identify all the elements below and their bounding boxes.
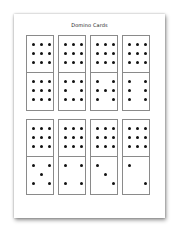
pip-dot — [96, 164, 99, 167]
pip-dot — [112, 89, 115, 92]
pip-dot — [104, 89, 107, 92]
pip-dot — [32, 182, 35, 185]
pip-dot — [48, 80, 51, 83]
domino-card — [122, 119, 150, 195]
pip-dot — [112, 136, 115, 139]
pip-dot — [32, 145, 35, 148]
domino-half-bottom — [59, 73, 85, 110]
pip-dot — [64, 43, 67, 46]
pip-dot — [136, 52, 139, 55]
pip-dot — [112, 127, 115, 130]
pip-dot — [40, 136, 43, 139]
pip-dot — [128, 145, 131, 148]
pip-dot — [48, 52, 51, 55]
pip-dot — [72, 80, 75, 83]
pip-dot — [128, 98, 131, 101]
domino-card — [26, 35, 54, 111]
domino-half-top — [27, 120, 53, 157]
domino-half-bottom — [91, 73, 117, 110]
pip-dot — [112, 61, 115, 64]
pip-dot — [32, 136, 35, 139]
pip-dot — [48, 89, 51, 92]
domino-half-top — [27, 36, 53, 73]
pip-dot — [144, 43, 147, 46]
pip-dot — [144, 80, 147, 83]
pip-dot — [40, 89, 43, 92]
pip-dot — [112, 182, 115, 185]
pip-dot — [128, 136, 131, 139]
pip-dot — [128, 52, 131, 55]
pip-dot — [144, 145, 147, 148]
pip-dot — [80, 182, 83, 185]
domino-card — [90, 35, 118, 111]
domino-half-bottom — [91, 157, 117, 194]
pip-dot — [40, 145, 43, 148]
pip-dot — [64, 182, 67, 185]
pip-dot — [104, 43, 107, 46]
domino-half-top — [123, 120, 149, 157]
pip-dot — [40, 98, 43, 101]
pip-dot — [40, 61, 43, 64]
pip-dot — [136, 145, 139, 148]
pip-dot — [136, 136, 139, 139]
pip-dot — [144, 127, 147, 130]
pip-dot — [104, 145, 107, 148]
domino-half-top — [91, 36, 117, 73]
pip-dot — [48, 43, 51, 46]
domino-half-top — [123, 36, 149, 73]
pip-dot — [96, 145, 99, 148]
pip-dot — [72, 136, 75, 139]
pip-dot — [32, 89, 35, 92]
domino-card — [58, 35, 86, 111]
pip-dot — [64, 164, 67, 167]
pip-dot — [64, 145, 67, 148]
pip-dot — [64, 52, 67, 55]
domino-half-bottom — [123, 73, 149, 110]
pip-dot — [104, 61, 107, 64]
pip-dot — [96, 127, 99, 130]
domino-half-top — [59, 120, 85, 157]
pip-dot — [144, 89, 147, 92]
pip-dot — [136, 43, 139, 46]
pip-dot — [96, 98, 99, 101]
pip-dot — [40, 80, 43, 83]
pip-dot — [96, 89, 99, 92]
pip-dot — [72, 43, 75, 46]
pip-dot — [32, 80, 35, 83]
domino-half-top — [91, 120, 117, 157]
pip-dot — [32, 52, 35, 55]
pip-dot — [72, 52, 75, 55]
pip-dot — [48, 182, 51, 185]
domino-half-top — [59, 36, 85, 73]
pip-dot — [104, 127, 107, 130]
domino-half-bottom — [27, 157, 53, 194]
pip-dot — [96, 80, 99, 83]
pip-dot — [72, 61, 75, 64]
pip-dot — [40, 173, 43, 176]
pip-dot — [80, 164, 83, 167]
pip-dot — [112, 43, 115, 46]
pip-dot — [144, 98, 147, 101]
domino-half-bottom — [123, 157, 149, 194]
pip-dot — [64, 127, 67, 130]
pip-dot — [128, 127, 131, 130]
pip-dot — [96, 52, 99, 55]
pip-dot — [72, 98, 75, 101]
pip-dot — [112, 80, 115, 83]
domino-card — [90, 119, 118, 195]
pip-dot — [48, 127, 51, 130]
pip-dot — [64, 98, 67, 101]
pip-dot — [64, 80, 67, 83]
pip-dot — [32, 43, 35, 46]
page-title: Domino Cards — [14, 22, 165, 28]
domino-card — [122, 35, 150, 111]
pip-dot — [128, 80, 131, 83]
pip-dot — [144, 52, 147, 55]
pip-dot — [64, 61, 67, 64]
pip-dot — [80, 80, 83, 83]
pip-dot — [104, 52, 107, 55]
pip-dot — [32, 61, 35, 64]
domino-card — [58, 119, 86, 195]
pip-dot — [80, 98, 83, 101]
pip-dot — [80, 52, 83, 55]
